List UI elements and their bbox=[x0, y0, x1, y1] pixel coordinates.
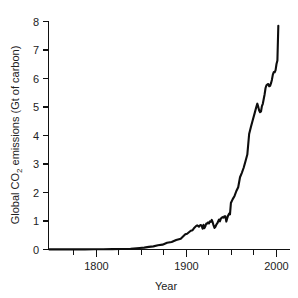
y-tick-label: 2 bbox=[33, 187, 39, 199]
y-tick-label: 4 bbox=[33, 130, 39, 142]
x-axis-ticks bbox=[74, 250, 277, 258]
x-tick-label: 1900 bbox=[174, 260, 198, 272]
co2-emissions-curve bbox=[49, 26, 278, 250]
y-axis-ticks bbox=[43, 22, 49, 250]
co2-emissions-figure: 0 1 2 3 4 5 6 7 8 1800 1900 2000 bbox=[0, 0, 298, 298]
y-tick-label: 5 bbox=[33, 101, 39, 113]
x-axis-title: Year bbox=[155, 280, 178, 292]
x-tick-label: 2000 bbox=[264, 260, 288, 272]
x-tick-label: 1800 bbox=[84, 260, 108, 272]
y-tick-label: 8 bbox=[33, 16, 39, 28]
x-tick-labels: 1800 1900 2000 bbox=[84, 260, 288, 272]
chart-canvas: 0 1 2 3 4 5 6 7 8 1800 1900 2000 bbox=[0, 0, 298, 298]
y-tick-label: 3 bbox=[33, 158, 39, 170]
y-axis-title-pre: Global CO bbox=[9, 173, 21, 225]
svg-text:Global CO2 emissions (Gt of ca: Global CO2 emissions (Gt of carbon) bbox=[9, 46, 24, 225]
y-axis-title: Global CO2 emissions (Gt of carbon) bbox=[9, 46, 24, 225]
y-axis-title-post: emissions (Gt of carbon) bbox=[9, 46, 21, 169]
y-tick-labels: 0 1 2 3 4 5 6 7 8 bbox=[33, 16, 39, 256]
y-tick-label: 7 bbox=[33, 44, 39, 56]
y-tick-label: 0 bbox=[33, 244, 39, 256]
y-tick-label: 1 bbox=[33, 215, 39, 227]
y-tick-label: 6 bbox=[33, 73, 39, 85]
